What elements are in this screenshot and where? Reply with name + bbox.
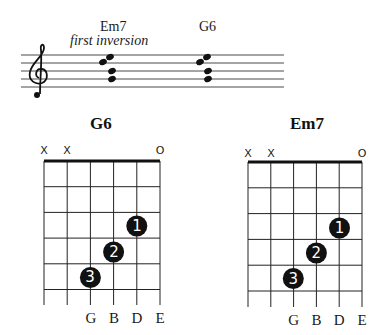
string-label-g: G: [86, 311, 97, 326]
string-label-g: G: [288, 313, 299, 328]
finger-number: 2: [310, 244, 322, 262]
string-label-b: B: [311, 313, 321, 328]
string-label-e: E: [155, 311, 164, 326]
finger-number: 1: [334, 219, 346, 237]
treble-clef-dot: [34, 92, 40, 98]
string-label-d: D: [132, 311, 143, 326]
string-label-d: D: [334, 313, 345, 328]
string-label-e: E: [357, 313, 366, 328]
open-string-marker: O: [156, 145, 165, 156]
finger-number: 3: [84, 268, 96, 286]
open-string-marker: O: [358, 148, 367, 159]
staff-lines: [21, 55, 284, 87]
finger-number: 3: [287, 270, 299, 288]
muted-string-marker: X: [40, 145, 48, 156]
chord-title: Em7: [290, 115, 324, 132]
chord-title: G6: [90, 115, 112, 132]
staff-svg: [0, 0, 389, 110]
muted-string-marker: X: [244, 148, 252, 159]
finger-number: 2: [108, 243, 120, 261]
muted-string-marker: X: [63, 145, 71, 156]
string-label-b: B: [109, 311, 119, 326]
muted-string-marker: X: [267, 148, 275, 159]
finger-number: 1: [131, 217, 143, 235]
